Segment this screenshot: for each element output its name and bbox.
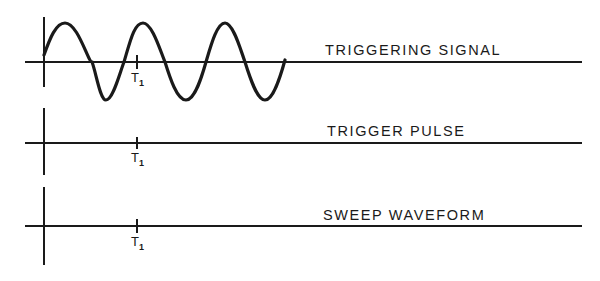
- trace-sweep-waveform: T1 SWEEP WAVEFORM: [25, 187, 582, 265]
- timing-diagram: T1 TRIGGERING SIGNAL T1 TRIGGER PULSE T1…: [0, 0, 600, 281]
- trace-trigger-pulse: T1 TRIGGER PULSE: [25, 108, 582, 175]
- t1-label-trigger-pulse: T1: [131, 150, 144, 168]
- t1-label-sweep-waveform: T1: [131, 234, 144, 252]
- t1-label-triggering-signal: T1: [131, 70, 144, 88]
- label-triggering-signal: TRIGGERING SIGNAL: [325, 42, 501, 58]
- label-sweep-waveform: SWEEP WAVEFORM: [323, 207, 485, 223]
- trace-triggering-signal: T1 TRIGGERING SIGNAL: [25, 17, 582, 100]
- label-trigger-pulse: TRIGGER PULSE: [327, 123, 465, 139]
